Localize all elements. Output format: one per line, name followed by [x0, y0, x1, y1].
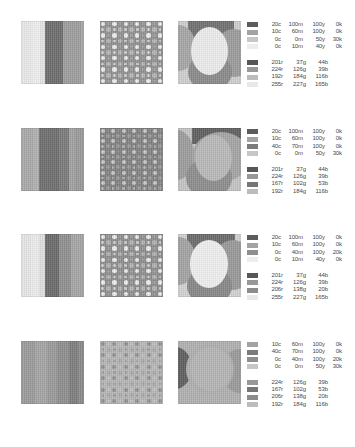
halftone-dot — [101, 276, 104, 279]
halftone-dot — [136, 264, 139, 267]
cmyk-legend-row: 10c60m100y0k — [247, 241, 351, 248]
halftone-dot — [136, 253, 139, 256]
halftone-dot — [143, 156, 145, 158]
cmyk-k-value: 0k — [325, 28, 342, 35]
halftone-dot — [147, 253, 150, 256]
halftone-dot — [135, 45, 139, 49]
halftone-dot — [159, 51, 162, 54]
halftone-dot — [130, 382, 134, 386]
halftone-dot — [107, 140, 109, 142]
halftone-dot — [107, 182, 109, 184]
halftone-dot — [147, 371, 149, 373]
cmyk-m-value: 70m — [281, 348, 303, 355]
halftone-dot — [133, 135, 135, 137]
halftone-dot — [147, 360, 149, 362]
halftone-dot — [152, 50, 156, 54]
halftone-dot — [153, 293, 156, 296]
halftone-dot — [107, 270, 110, 273]
halftone-dot — [127, 165, 131, 169]
ellipse-shape — [191, 27, 228, 75]
halftone-dot — [132, 181, 136, 185]
rgb-r-value: 206r — [262, 286, 283, 293]
rgb-g-value: 184g — [283, 401, 306, 408]
cmyk-c-value: 10c — [262, 341, 281, 348]
halftone-dot — [118, 382, 122, 386]
halftone-dot — [130, 34, 133, 37]
halftone-dot — [107, 57, 110, 60]
rgb-legend: 201r37g44b224r126g39b167r102g53b192r184g… — [247, 166, 351, 196]
halftone-dot — [146, 246, 150, 250]
halftone-dot-panel — [100, 234, 163, 297]
halftone-dot — [101, 187, 103, 189]
halftone-dot — [102, 383, 104, 385]
halftone-dot — [118, 348, 122, 352]
halftone-dot — [129, 286, 133, 290]
halftone-dot — [146, 235, 150, 239]
rgb-legend: 201r37g44b224r126g39b206r138g20b255r227g… — [247, 272, 351, 302]
stripe-band — [21, 341, 35, 404]
color-swatch — [247, 37, 258, 42]
halftone-dot — [158, 342, 162, 346]
halftone-dot — [107, 247, 110, 250]
halftone-dot — [136, 51, 139, 54]
cmyk-m-value: 70m — [281, 143, 303, 150]
halftone-dot — [158, 399, 162, 403]
rgb-b-value: 44b — [306, 166, 328, 173]
rgb-g-value: 227g — [283, 294, 306, 301]
halftone-dot — [153, 235, 156, 238]
halftone-dot — [112, 342, 116, 346]
rgb-b-value: 20b — [306, 286, 328, 293]
halftone-dot — [107, 150, 109, 152]
halftone-dot — [141, 382, 145, 386]
halftone-dot — [159, 276, 162, 279]
rgb-r-value: 201r — [262, 272, 283, 279]
halftone-dot — [153, 80, 156, 83]
halftone-dot — [153, 68, 156, 71]
halftone-dot — [119, 247, 122, 250]
rgb-r-value: 224r — [262, 66, 283, 73]
rgb-b-value: 116b — [306, 73, 328, 80]
halftone-dot — [112, 280, 116, 284]
cmyk-legend-row: 0c0m50y30k — [247, 363, 351, 370]
halftone-dot — [147, 63, 150, 66]
halftone-dot — [112, 145, 114, 147]
halftone-dot — [159, 182, 161, 184]
cmyk-legend: 20c100m100y0k10c60m100y0k0c40m100y20k0c1… — [247, 234, 351, 264]
halftone-dot — [101, 129, 105, 133]
halftone-dot — [152, 240, 156, 244]
halftone-dot — [101, 28, 104, 31]
halftone-dot — [101, 166, 103, 168]
halftone-dot — [152, 371, 156, 375]
cmyk-c-value: 0c — [262, 363, 281, 370]
halftone-dot — [147, 399, 151, 403]
halftone-dot — [116, 176, 120, 180]
halftone-dot — [159, 394, 161, 396]
halftone-dot — [158, 292, 162, 296]
halftone-dot — [143, 135, 145, 137]
stripe-band — [81, 21, 84, 84]
rgb-b-value: 39b — [306, 279, 328, 286]
halftone-dot — [142, 247, 145, 250]
halftone-dot — [133, 156, 135, 158]
halftone-dot — [118, 27, 122, 31]
halftone-dot — [107, 377, 109, 379]
halftone-dot — [107, 388, 109, 390]
halftone-dot — [101, 63, 104, 66]
color-swatch — [247, 75, 258, 80]
cmyk-k-value: 30k — [325, 150, 342, 157]
halftone-dot — [159, 40, 162, 43]
rgb-r-value: 224r — [262, 379, 283, 386]
halftone-dot — [147, 51, 150, 54]
halftone-dot — [125, 348, 127, 350]
cmyk-k-value: 20k — [325, 356, 342, 363]
color-swatch — [247, 174, 258, 179]
organic-shapes-panel — [178, 21, 241, 84]
halftone-dot — [101, 342, 105, 346]
halftone-dot — [130, 366, 132, 368]
halftone-dot — [153, 160, 157, 164]
halftone-dot — [147, 264, 150, 267]
rgb-g-value: 184g — [283, 188, 306, 195]
halftone-dot — [124, 388, 128, 392]
halftone-dot — [132, 160, 136, 164]
halftone-dot — [142, 281, 145, 284]
